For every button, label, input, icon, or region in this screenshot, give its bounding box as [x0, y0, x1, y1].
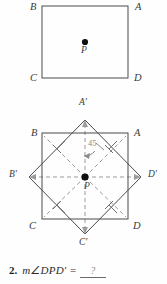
answer-blank[interactable]: ?: [80, 266, 106, 278]
bottom-figure-rotated-squares: [0, 0, 167, 260]
question-line: 2. m∠DPD′ = ?: [9, 264, 167, 282]
vertex-label-B-lower: B: [31, 128, 37, 139]
angle-leader-line: [96, 143, 104, 150]
arrowhead-down: [82, 227, 88, 234]
vertex-label-C-lower: C: [29, 221, 36, 232]
tick-mark-lower-left-b: [57, 205, 65, 213]
vertex-label-C-prime: C': [79, 238, 87, 248]
vertex-label-D-prime: D': [148, 170, 157, 180]
center-point-label-P-lower: P: [84, 182, 90, 192]
arrowhead-left: [29, 174, 36, 180]
dashed-ray-down-left: [44, 177, 85, 217]
vertex-label-A-lower: A: [134, 128, 140, 139]
vertex-label-B-prime: B': [9, 170, 17, 180]
arrowhead-up: [82, 120, 88, 127]
question-number: 2.: [9, 264, 17, 276]
vertex-label-D-lower: D: [133, 221, 141, 232]
vertex-label-A-prime: A': [79, 98, 87, 108]
worksheet-figure-page: B A C D P: [0, 0, 167, 284]
question-expression: m∠DPD′ =: [22, 264, 77, 277]
center-point-P-dot-lower: [81, 173, 88, 180]
tick-mark-upper-left-b: [57, 141, 65, 149]
dashed-ray-down-right: [85, 177, 126, 217]
angle-measure-annotation-45: 45: [88, 138, 97, 148]
arrowhead-right: [134, 174, 141, 180]
